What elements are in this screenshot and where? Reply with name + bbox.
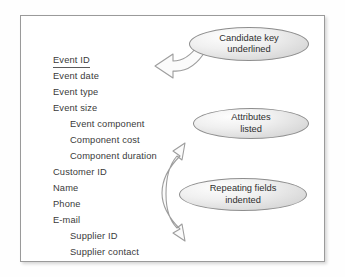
attribute-label: Event size [53,100,97,116]
list-item: Component cost [53,132,203,148]
callout-attributes: Attributes listed [193,108,309,139]
callout-line-2: listed [231,124,270,136]
callout-repeating-fields: Repeating fields indented [179,178,307,211]
callout-candidate-key: Candidate key underlined [189,27,309,61]
callout-text: Repeating fields indented [210,183,277,206]
list-item: Customer ID [53,164,203,180]
attribute-label: Supplier contact [70,244,139,260]
attribute-label: E-mail [53,212,80,228]
attribute-label: Event component [70,116,145,132]
list-item: Event type [53,84,203,100]
callout-line-2: indented [210,195,277,207]
callout-line-1: Candidate key [219,33,278,43]
list-item: Supplier ID [53,228,203,244]
callout-line-2: underlined [219,44,278,56]
callout-text: Attributes listed [231,112,270,135]
list-item: Event ID [53,52,203,68]
callout-text: Candidate key underlined [219,33,278,56]
attribute-list: Event ID Event date Event type Event siz… [53,52,203,260]
attribute-label: Customer ID [53,164,107,180]
list-item: Event size [53,100,203,116]
attribute-label: Event type [53,84,98,100]
list-item: Event date [53,68,203,84]
list-item: E-mail [53,212,203,228]
callout-line-1: Attributes [231,112,270,122]
callout-line-1: Repeating fields [210,183,277,193]
list-item: Event component [53,116,203,132]
attribute-label: Event ID [53,53,90,68]
list-item: Supplier contact [53,244,203,260]
attribute-label: Event date [53,68,99,84]
attribute-label: Name [53,180,78,196]
figure-root: Event ID Event date Event type Event siz… [0,0,345,277]
attribute-label: Supplier ID [70,228,118,244]
attribute-label: Component cost [70,132,140,148]
list-item: Component duration [53,148,203,164]
attribute-label: Component duration [70,148,157,164]
attribute-label: Phone [53,196,81,212]
